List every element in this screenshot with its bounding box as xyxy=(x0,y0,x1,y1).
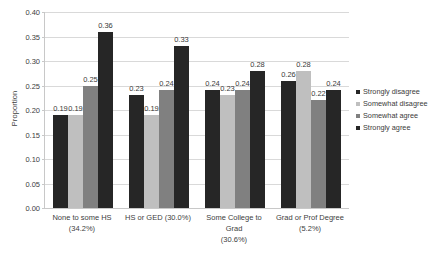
bar-value-label: 0.26 xyxy=(281,70,296,80)
bar-slot: 0.19 xyxy=(53,12,68,208)
bar-value-label: 0.22 xyxy=(311,89,326,99)
bar-slot: 0.19 xyxy=(144,12,159,208)
bar-slot: 0.28 xyxy=(250,12,265,208)
legend-label: Somewhat disagree xyxy=(363,98,428,110)
bar-value-label: 0.23 xyxy=(129,84,144,94)
legend-color-swatch xyxy=(356,114,360,118)
bar-group: 0.260.280.220.24 xyxy=(273,12,349,208)
bar-group: 0.230.190.240.33 xyxy=(121,12,197,208)
y-axis-tick-label: 0.35 xyxy=(6,32,40,41)
y-axis-tick-label: 0.25 xyxy=(6,81,40,90)
bar-value-label: 0.25 xyxy=(83,75,98,85)
category-percent: (5.2%) xyxy=(273,223,347,234)
bar[interactable]: 0.28 xyxy=(250,71,265,208)
bar-value-label: 0.24 xyxy=(205,79,220,89)
bar-slot: 0.26 xyxy=(281,12,296,208)
bar[interactable]: 0.23 xyxy=(129,95,144,208)
x-axis-category-label: None to some HS(34.2%) xyxy=(44,212,120,245)
bar-groups: 0.190.190.250.360.230.190.240.330.240.23… xyxy=(45,12,349,208)
bar[interactable]: 0.19 xyxy=(144,115,159,208)
bar-value-label: 0.28 xyxy=(296,60,311,70)
plot-area: 0.190.190.250.360.230.190.240.330.240.23… xyxy=(44,12,349,209)
x-axis-category-labels: None to some HS(34.2%)HS or GED (30.0%)S… xyxy=(44,212,348,245)
bar-slot: 0.28 xyxy=(296,12,311,208)
bar-value-label: 0.19 xyxy=(53,104,68,114)
bar[interactable]: 0.24 xyxy=(205,90,220,208)
y-axis-tickmark xyxy=(42,208,45,209)
bar-slot: 0.24 xyxy=(205,12,220,208)
bar-slot: 0.25 xyxy=(83,12,98,208)
y-axis-tick-label: 0.05 xyxy=(6,179,40,188)
bar-value-label: 0.19 xyxy=(68,104,83,114)
bar[interactable]: 0.24 xyxy=(326,90,341,208)
legend-color-swatch xyxy=(356,102,360,106)
bar[interactable]: 0.19 xyxy=(53,115,68,208)
category-name: Some College to Grad xyxy=(206,213,261,233)
legend-item[interactable]: Somewhat disagree xyxy=(356,98,436,110)
legend-color-swatch xyxy=(356,126,360,130)
bar-slot: 0.33 xyxy=(174,12,189,208)
legend-label: Somewhat agree xyxy=(363,110,418,122)
chart-legend: Strongly disagreeSomewhat disagreeSomewh… xyxy=(356,86,436,134)
bar-slot: 0.36 xyxy=(98,12,113,208)
bar-value-label: 0.28 xyxy=(250,60,265,70)
bar-value-label: 0.24 xyxy=(159,79,174,89)
bar[interactable]: 0.19 xyxy=(68,115,83,208)
y-axis-tick-label: 0.30 xyxy=(6,57,40,66)
bar-slot: 0.24 xyxy=(326,12,341,208)
category-name: HS or GED (30.0%) xyxy=(125,213,191,222)
bar-slot: 0.19 xyxy=(68,12,83,208)
y-axis-tick-label: 0.10 xyxy=(6,155,40,164)
x-axis-category-label: Grad or Prof Degree(5.2%) xyxy=(272,212,348,245)
bar-value-label: 0.24 xyxy=(326,79,341,89)
bar-slot: 0.24 xyxy=(235,12,250,208)
bar[interactable]: 0.36 xyxy=(98,32,113,208)
y-axis-tick-label: 0.00 xyxy=(6,204,40,213)
category-percent: (30.6%) xyxy=(197,234,271,245)
x-axis-category-label: Some College to Grad(30.6%) xyxy=(196,212,272,245)
bar[interactable]: 0.23 xyxy=(220,95,235,208)
bar-slot: 0.22 xyxy=(311,12,326,208)
legend-color-swatch xyxy=(356,90,360,94)
category-percent: (34.2%) xyxy=(45,223,119,234)
bar-group: 0.190.190.250.36 xyxy=(45,12,121,208)
bar-value-label: 0.23 xyxy=(220,84,235,94)
legend-item[interactable]: Strongly agree xyxy=(356,122,436,134)
bar[interactable]: 0.33 xyxy=(174,46,189,208)
bar-value-label: 0.19 xyxy=(144,104,159,114)
bar-value-label: 0.36 xyxy=(98,21,113,31)
legend-label: Strongly disagree xyxy=(363,86,420,98)
bar-group: 0.240.230.240.28 xyxy=(197,12,273,208)
bar-slot: 0.23 xyxy=(129,12,144,208)
bar[interactable]: 0.24 xyxy=(235,90,250,208)
bar[interactable]: 0.24 xyxy=(159,90,174,208)
bar-value-label: 0.33 xyxy=(174,35,189,45)
bar-chart: Proportion 0.400.350.300.250.200.150.100… xyxy=(0,0,436,258)
bar-slot: 0.23 xyxy=(220,12,235,208)
y-axis-tick-label: 0.20 xyxy=(6,106,40,115)
bar[interactable]: 0.26 xyxy=(281,81,296,208)
category-name: Grad or Prof Degree xyxy=(276,213,344,222)
legend-item[interactable]: Somewhat agree xyxy=(356,110,436,122)
bar-slot: 0.24 xyxy=(159,12,174,208)
category-name: None to some HS xyxy=(52,213,111,222)
y-axis-tick-label: 0.40 xyxy=(6,8,40,17)
bar[interactable]: 0.22 xyxy=(311,100,326,208)
x-axis-category-label: HS or GED (30.0%) xyxy=(120,212,196,245)
y-axis-tick-label: 0.15 xyxy=(6,130,40,139)
legend-item[interactable]: Strongly disagree xyxy=(356,86,436,98)
bar[interactable]: 0.28 xyxy=(296,71,311,208)
legend-label: Strongly agree xyxy=(363,122,410,134)
y-axis-tick-labels: 0.400.350.300.250.200.150.100.050.00 xyxy=(6,12,40,208)
bar-value-label: 0.24 xyxy=(235,79,250,89)
bar[interactable]: 0.25 xyxy=(83,86,98,209)
